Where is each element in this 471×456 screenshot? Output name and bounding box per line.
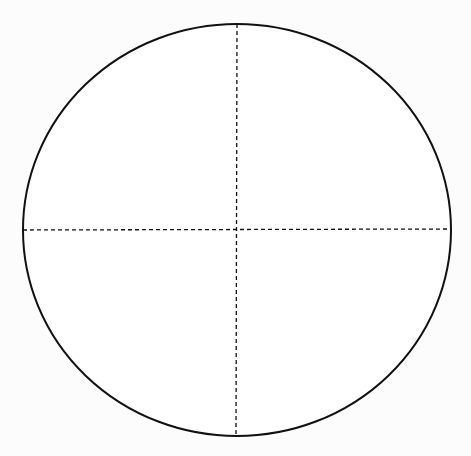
ellipse-diagram bbox=[0, 0, 471, 456]
